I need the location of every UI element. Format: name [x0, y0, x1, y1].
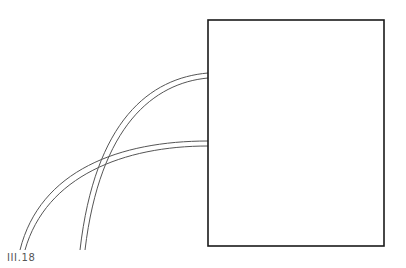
diagram-canvas: [0, 0, 406, 268]
lower-arc-outer: [20, 141, 208, 250]
upper-arc-inner: [85, 78, 208, 250]
rectangle-box: [208, 20, 384, 246]
lower-arc-inner: [25, 146, 208, 250]
upper-arc-outer: [80, 73, 208, 250]
figure-label: III.18: [7, 252, 35, 263]
